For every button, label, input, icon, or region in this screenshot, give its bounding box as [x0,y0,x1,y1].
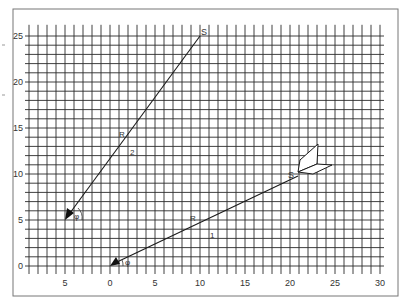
y-tick-label: 20 [13,77,23,87]
tick-labels: 50510152025300510152025 [13,31,385,288]
diagram-canvas: 50510152025300510152025 S R 2 φ S R 1 φ [0,0,407,306]
vector-1-start-label: S [288,170,294,180]
vector-2-line [70,36,200,213]
y-tick-label: 10 [13,169,23,179]
x-tick-label: 20 [285,278,295,288]
vector-1: S R 1 φ [110,170,298,267]
vector-2-mid-label: R [119,130,125,139]
x-tick-label: 5 [152,278,157,288]
vector-2-number: 2 [130,148,135,157]
vector-2: S R 2 φ [65,27,207,221]
vector-2-start-label: S [201,27,207,37]
x-tick-label: 15 [240,278,250,288]
folded-card-icon [298,144,332,174]
y-tick-label: 5 [18,215,23,225]
vector-1-angle-label: φ [125,258,130,267]
x-tick-label: 10 [195,278,205,288]
arrowhead-icon [110,257,120,266]
x-tick-label: 25 [330,278,340,288]
x-tick-label: 5 [62,278,67,288]
y-tick-label: 15 [13,123,23,133]
x-tick-label: 30 [375,278,385,288]
y-tick-label: 25 [13,31,23,41]
figure-frame [13,9,398,296]
y-tick-label: 0 [18,261,23,271]
vector-1-line [117,176,298,262]
x-tick-label: 0 [107,278,112,288]
vector-2-angle-label: φ [74,212,79,221]
grid-lines [25,25,384,274]
coordinate-grid-diagram: 50510152025300510152025 S R 2 φ S R 1 φ [0,0,407,306]
vector-1-mid-label: R [190,214,196,223]
vector-1-number: 1 [210,231,215,240]
angle-arc-icon [122,260,123,266]
